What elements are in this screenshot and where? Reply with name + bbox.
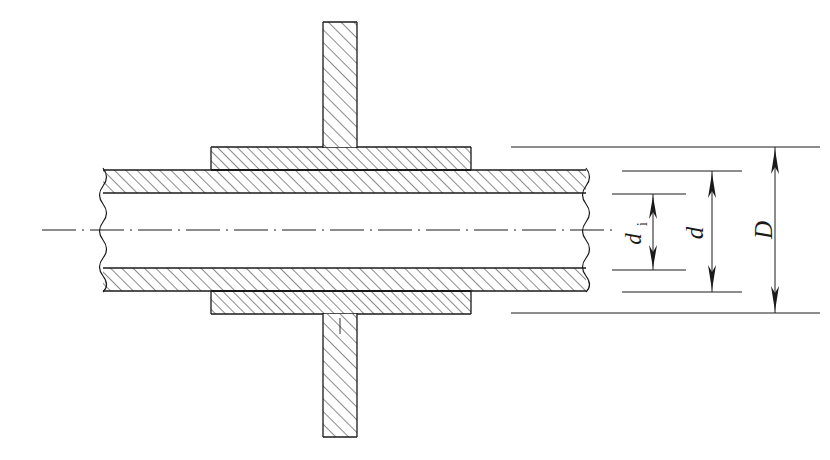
dimension-label-di-subscript: i: [635, 222, 650, 226]
dimension-d: d: [622, 171, 742, 292]
pipe-sleeve-section-drawing: D d d i: [0, 0, 830, 460]
sleeve-lower: [211, 291, 471, 314]
sleeve-upper: [211, 147, 471, 170]
pipe-wall-lower: [103, 268, 586, 291]
technical-drawing-canvas: D d d i: [0, 0, 830, 460]
dimension-label-di-group: d i: [621, 222, 650, 245]
pipe-wall-upper: [103, 170, 586, 193]
dimension-label-d: d: [681, 226, 708, 239]
dimension-label-di-base: d: [621, 233, 646, 245]
vertical-web-lower: [323, 313, 357, 437]
dimension-label-D: D: [750, 221, 777, 240]
vertical-web-upper: [323, 22, 357, 148]
dimension-di: d i: [612, 194, 686, 270]
